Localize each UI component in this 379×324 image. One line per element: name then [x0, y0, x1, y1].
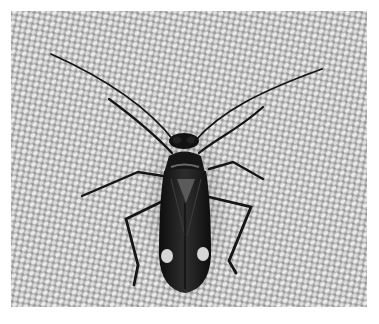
wing-spot-left: [161, 249, 173, 263]
wing-spot-right: [197, 247, 209, 261]
insect-photo-svg: [11, 11, 367, 307]
insect-photo: [11, 11, 367, 307]
